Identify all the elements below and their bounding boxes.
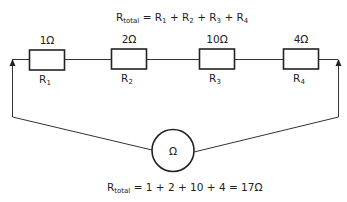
- circuit-diagram: Rtotal = R1 + R2 + R3 + R4 1Ω 2Ω 10Ω 4Ω …: [0, 0, 347, 202]
- r2-label: R2: [121, 72, 133, 86]
- ohm-symbol-icon: Ω: [169, 145, 177, 157]
- right-arrow-icon: [336, 59, 342, 66]
- r3-label: R3: [209, 72, 221, 86]
- r1-value: 1Ω: [40, 34, 55, 46]
- top-formula: Rtotal = R1 + R2 + R3 + R4: [116, 11, 249, 25]
- r1-label: R1: [39, 73, 51, 87]
- r4-label: R4: [293, 72, 305, 86]
- r4-value: 4Ω: [294, 33, 309, 45]
- r3-value: 10Ω: [206, 33, 227, 45]
- resistor-r2: [112, 49, 147, 69]
- resistor-r1: [30, 50, 65, 70]
- resistor-r3: [200, 49, 235, 69]
- left-meter-lead: [13, 117, 153, 150]
- r2-value: 2Ω: [122, 33, 137, 45]
- resistor-r4: [284, 49, 319, 69]
- bottom-formula: Rtotal = 1 + 2 + 10 + 4 = 17Ω: [107, 181, 262, 195]
- right-meter-lead: [194, 117, 339, 152]
- left-arrow-icon: [10, 59, 16, 66]
